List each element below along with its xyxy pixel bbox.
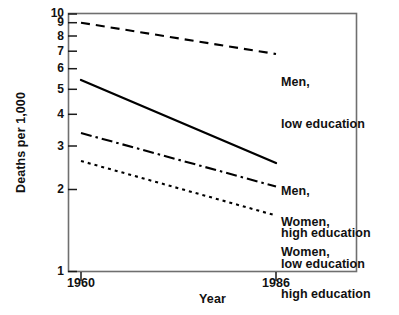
y-tick-label-1: 1 [42,265,64,277]
series-label-women-high-education-line1: Women, [281,245,371,259]
y-tick-marks [68,14,77,272]
series-label-men-low-education: Men, low education [281,46,365,160]
y-tick-label-5: 5 [42,83,64,95]
series-line-women-high-education [81,161,276,216]
series-label-men-low-education-line1: Men, [281,75,365,89]
series-label-women-high-education: Women, high education [281,216,371,315]
series-line-women-low-education [81,133,276,187]
y-tick-label-9: 9 [42,16,64,28]
y-tick-label-7: 7 [42,45,64,57]
y-tick-label-6: 6 [42,62,64,74]
series-line-men-low-education [81,23,276,54]
series-label-men-low-education-line2: low education [281,117,365,131]
y-tick-label-group: 10 9 8 7 6 5 4 3 2 1 [40,0,64,315]
series-line-men-high-education [81,80,276,163]
chart-figure: 10 9 8 7 6 5 4 3 2 1 1960 1986 Deaths pe… [0,0,399,315]
y-tick-label-4: 4 [42,108,64,120]
y-tick-label-8: 8 [42,30,64,42]
y-tick-label-2: 2 [42,183,64,195]
x-tick-label-1960: 1960 [51,277,111,290]
y-tick-label-3: 3 [42,140,64,152]
series-label-women-high-education-line2: high education [281,287,371,301]
